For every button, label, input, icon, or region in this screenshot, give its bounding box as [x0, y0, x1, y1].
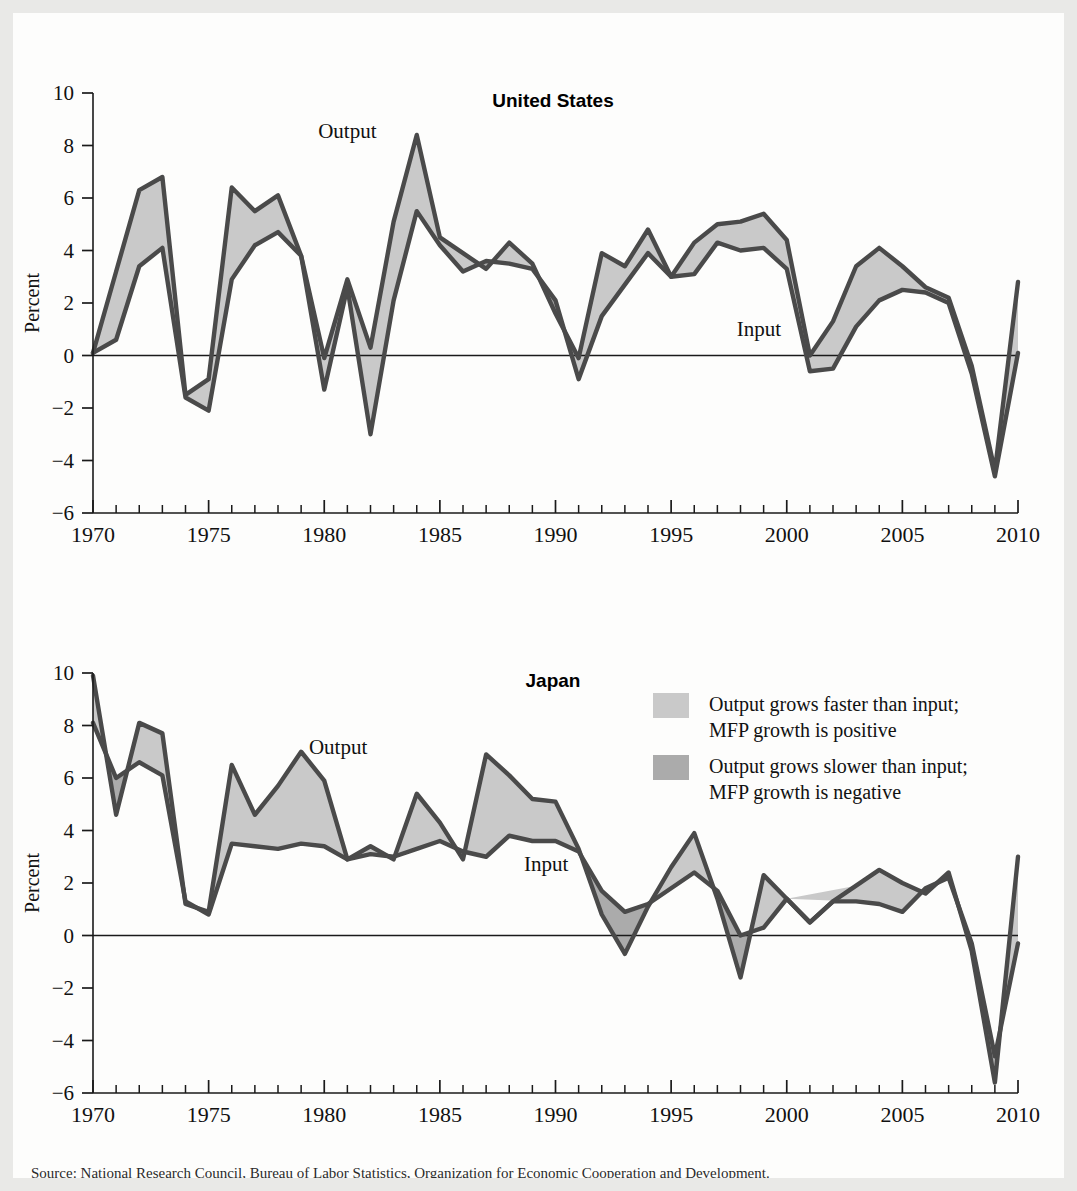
x-tick-label: 1985	[418, 522, 462, 547]
legend-swatch-positive	[653, 693, 689, 718]
x-tick-label: 2000	[765, 522, 809, 547]
y-tick-label: 2	[64, 291, 75, 315]
y-tick-label: −4	[52, 449, 75, 473]
figure-caption: Source: National Research Council, Burea…	[31, 1165, 1051, 1178]
mfp-positive-band	[127, 723, 184, 894]
legend-label-line1: Output grows slower than input;	[709, 755, 968, 778]
y-tick-label: 10	[53, 661, 74, 685]
y-tick-label: 0	[64, 924, 75, 948]
y-tick-label: −2	[52, 396, 74, 420]
y-tick-label: 8	[64, 714, 75, 738]
legend-label-line1: Output grows faster than input;	[709, 693, 959, 716]
x-tick-label: 1990	[534, 522, 578, 547]
y-tick-label: 6	[64, 186, 75, 210]
series-label-output: Output	[309, 735, 368, 759]
y-tick-label: 2	[64, 871, 75, 895]
x-tick-label: 2010	[996, 1102, 1040, 1127]
mfp-positive-band	[651, 833, 714, 902]
y-tick-label: −2	[52, 976, 74, 1000]
y-tick-label: 6	[64, 766, 75, 790]
y-tick-label: 10	[53, 81, 74, 105]
y-axis-title: Percent	[21, 853, 43, 913]
legend-swatch-negative	[653, 755, 689, 780]
x-tick-label: 1970	[71, 522, 115, 547]
series-label-input: Input	[737, 317, 781, 341]
y-tick-label: 4	[64, 239, 75, 263]
x-tick-label: 1975	[187, 1102, 231, 1127]
figure-page: 1086420−2−4−6197019751980198519901995200…	[13, 13, 1064, 1178]
legend-label-line2: MFP growth is positive	[709, 719, 897, 742]
series-label-input: Input	[524, 852, 568, 876]
x-tick-label: 1995	[649, 522, 693, 547]
y-tick-label: 8	[64, 134, 75, 158]
chart-svg-united-states: 1086420−2−4−6197019751980198519901995200…	[13, 13, 1064, 553]
chart-title: Japan	[526, 670, 581, 691]
x-tick-label: 2005	[880, 1102, 924, 1127]
x-tick-label: 1975	[187, 522, 231, 547]
chart-panel-united-states: 1086420−2−4−6197019751980198519901995200…	[13, 13, 1064, 553]
series-label-output: Output	[318, 119, 377, 143]
x-tick-label: 2010	[996, 522, 1040, 547]
x-tick-label: 2000	[765, 1102, 809, 1127]
x-tick-label: 1980	[302, 522, 346, 547]
x-tick-label: 1980	[302, 1102, 346, 1127]
x-tick-label: 2005	[880, 522, 924, 547]
chart-svg-japan: 1086420−2−4−6197019751980198519901995200…	[13, 593, 1064, 1153]
legend-label-line2: MFP growth is negative	[709, 781, 901, 804]
mfp-positive-band	[197, 752, 388, 915]
x-tick-label: 1990	[534, 1102, 578, 1127]
y-axis-title: Percent	[21, 273, 43, 333]
y-tick-label: −4	[52, 1029, 75, 1053]
mfp-positive-band	[93, 135, 479, 434]
y-tick-label: 0	[64, 344, 75, 368]
x-tick-label: 1970	[71, 1102, 115, 1127]
y-tick-label: 4	[64, 819, 75, 843]
chart-panel-japan: 1086420−2−4−6197019751980198519901995200…	[13, 593, 1064, 1153]
x-tick-label: 1985	[418, 1102, 462, 1127]
chart-title: United States	[492, 90, 613, 111]
x-tick-label: 1995	[649, 1102, 693, 1127]
